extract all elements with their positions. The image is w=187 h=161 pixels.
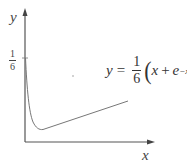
eq-plus: + <box>161 62 169 79</box>
tick-numerator: 1 <box>10 49 15 59</box>
tick-denominator: 6 <box>10 62 15 72</box>
eq-e: e <box>173 62 180 79</box>
eq-lhs: y <box>106 62 113 79</box>
eq-denominator: 6 <box>133 72 140 86</box>
curve-equation: y = 1 6 ( x + e−x ) <box>106 55 187 86</box>
eq-fraction: 1 6 <box>132 55 141 86</box>
y-axis-arrow-icon <box>23 8 28 16</box>
eq-open-paren: ( <box>144 56 151 85</box>
eq-exponent: −x <box>179 66 187 76</box>
eq-x: x <box>151 62 158 79</box>
y-tick-label: 1 6 <box>9 49 16 72</box>
x-axis-label: x <box>142 148 149 161</box>
y-axis-label: y <box>10 10 17 25</box>
stray-dot <box>72 75 74 77</box>
eq-numerator: 1 <box>133 55 140 69</box>
eq-equals: = <box>117 62 125 79</box>
x-axis-arrow-icon <box>147 140 155 145</box>
